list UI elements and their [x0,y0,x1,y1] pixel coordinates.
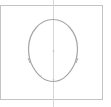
center-marker [53,50,55,52]
drawing-canvas[interactable] [0,0,111,107]
cheek-marker [40,75,42,77]
head-sketch [0,0,111,107]
chin-marker [53,79,55,81]
